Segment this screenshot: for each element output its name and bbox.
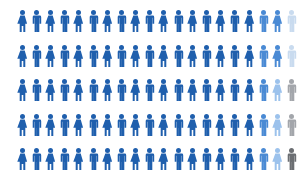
female-person-icon — [242, 79, 256, 101]
male-person-icon — [114, 79, 128, 101]
female-person-icon — [43, 45, 57, 67]
male-person-icon — [143, 79, 157, 101]
female-person-icon — [157, 148, 171, 170]
male-person-icon — [58, 10, 72, 32]
male-person-icon — [86, 45, 100, 67]
male-person-icon — [29, 45, 43, 67]
female-person-icon — [129, 148, 143, 170]
male-person-icon — [285, 10, 299, 32]
male-person-icon — [171, 79, 185, 101]
male-person-icon — [171, 148, 185, 170]
male-person-icon — [143, 45, 157, 67]
male-person-icon — [58, 79, 72, 101]
male-person-icon — [29, 79, 43, 101]
male-person-icon — [228, 45, 242, 67]
pictogram-row — [15, 10, 299, 32]
pictogram-row — [15, 79, 299, 101]
male-person-icon — [86, 114, 100, 136]
male-person-icon — [29, 114, 43, 136]
female-person-icon — [270, 10, 284, 32]
female-person-icon — [15, 45, 29, 67]
pictogram-row — [15, 114, 299, 136]
female-person-icon — [214, 148, 228, 170]
male-person-icon — [143, 114, 157, 136]
male-person-icon — [86, 10, 100, 32]
male-person-icon — [58, 148, 72, 170]
female-person-icon — [270, 148, 284, 170]
pictogram-grid — [15, 10, 299, 183]
female-person-icon — [270, 79, 284, 101]
female-person-icon — [72, 10, 86, 32]
male-person-icon — [228, 10, 242, 32]
male-person-icon — [171, 45, 185, 67]
female-person-icon — [185, 10, 199, 32]
female-person-icon — [242, 148, 256, 170]
female-person-icon — [157, 79, 171, 101]
female-person-icon — [72, 79, 86, 101]
female-person-icon — [185, 148, 199, 170]
male-person-icon — [256, 148, 270, 170]
female-person-icon — [100, 79, 114, 101]
female-person-icon — [214, 114, 228, 136]
male-person-icon — [199, 148, 213, 170]
male-person-icon — [228, 114, 242, 136]
male-person-icon — [256, 79, 270, 101]
male-person-icon — [256, 45, 270, 67]
female-person-icon — [185, 79, 199, 101]
male-person-icon — [58, 45, 72, 67]
pictogram-row — [15, 148, 299, 170]
male-person-icon — [86, 148, 100, 170]
male-person-icon — [29, 10, 43, 32]
male-person-icon — [199, 10, 213, 32]
male-person-icon — [114, 10, 128, 32]
female-person-icon — [43, 10, 57, 32]
male-person-icon — [143, 10, 157, 32]
female-person-icon — [72, 148, 86, 170]
female-person-icon — [15, 148, 29, 170]
male-person-icon — [199, 114, 213, 136]
pictogram-row — [15, 45, 299, 67]
female-person-icon — [129, 114, 143, 136]
male-person-icon — [228, 148, 242, 170]
male-person-icon — [285, 45, 299, 67]
female-person-icon — [157, 45, 171, 67]
female-person-icon — [185, 45, 199, 67]
male-person-icon — [171, 114, 185, 136]
male-person-icon — [256, 114, 270, 136]
female-person-icon — [214, 10, 228, 32]
male-person-icon — [285, 114, 299, 136]
female-person-icon — [43, 79, 57, 101]
female-person-icon — [242, 114, 256, 136]
female-person-icon — [100, 10, 114, 32]
male-person-icon — [285, 79, 299, 101]
female-person-icon — [43, 148, 57, 170]
female-person-icon — [270, 114, 284, 136]
male-person-icon — [143, 148, 157, 170]
female-person-icon — [129, 79, 143, 101]
female-person-icon — [157, 10, 171, 32]
female-person-icon — [100, 114, 114, 136]
male-person-icon — [58, 114, 72, 136]
female-person-icon — [43, 114, 57, 136]
female-person-icon — [270, 45, 284, 67]
female-person-icon — [72, 114, 86, 136]
male-person-icon — [29, 148, 43, 170]
male-person-icon — [199, 45, 213, 67]
female-person-icon — [242, 10, 256, 32]
female-person-icon — [157, 114, 171, 136]
male-person-icon — [86, 79, 100, 101]
male-person-icon — [114, 45, 128, 67]
male-person-icon — [256, 10, 270, 32]
female-person-icon — [242, 45, 256, 67]
female-person-icon — [129, 45, 143, 67]
male-person-icon — [114, 148, 128, 170]
male-person-icon — [199, 79, 213, 101]
female-person-icon — [214, 45, 228, 67]
female-person-icon — [72, 45, 86, 67]
female-person-icon — [15, 79, 29, 101]
male-person-icon — [171, 10, 185, 32]
female-person-icon — [100, 45, 114, 67]
female-person-icon — [214, 79, 228, 101]
female-person-icon — [185, 114, 199, 136]
female-person-icon — [15, 114, 29, 136]
